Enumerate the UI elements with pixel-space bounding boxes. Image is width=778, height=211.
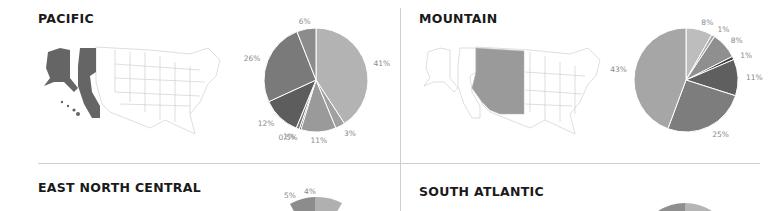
us-map-mountain (420, 42, 610, 138)
slice-label: 26% (244, 54, 261, 63)
slice-label: 1% (740, 51, 752, 60)
slice-label: 4% (304, 187, 316, 196)
pie-chart-mountain: 8%1%8%1%11%25%43% (606, 0, 778, 150)
pie-chart-south-atlantic-partial (640, 200, 730, 211)
pie-chart-pacific: 41%3%11%0.5%1%12%26%6% (236, 0, 396, 150)
slice-label: 8% (701, 18, 713, 27)
highlight-mountain-states (472, 48, 524, 114)
panel-title-east-north-central: EAST NORTH CENTRAL (38, 180, 201, 195)
slice-label: 1% (717, 25, 729, 34)
panel-title-south-atlantic: SOUTH ATLANTIC (419, 184, 544, 199)
panel-title-pacific: PACIFIC (38, 11, 94, 26)
vertical-divider (400, 8, 401, 211)
slice-label: 11% (310, 136, 327, 145)
slice-label: 6% (299, 17, 311, 26)
highlight-pacific-states (44, 48, 100, 118)
us-map-pacific (40, 42, 230, 138)
slice-label: 25% (712, 130, 729, 139)
slice-label: 41% (374, 59, 391, 68)
slice-label: 8% (731, 36, 743, 45)
slice-label: 11% (746, 73, 763, 82)
slice-label: 12% (258, 119, 275, 128)
horizontal-divider (38, 163, 760, 164)
pie-chart-east-north-central-partial: 5% 4% (270, 190, 360, 211)
slice-label: 3% (344, 129, 356, 138)
slice-label: 43% (610, 65, 627, 74)
panel-title-mountain: MOUNTAIN (419, 11, 497, 26)
slice-label: 1% (283, 132, 295, 141)
slice-label: 5% (284, 191, 296, 200)
